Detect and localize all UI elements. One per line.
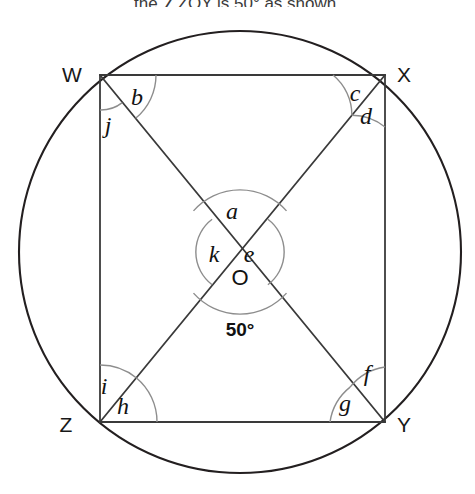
- vertex-label-z: Z: [60, 413, 73, 436]
- angle-label-b: b: [131, 84, 143, 110]
- angle-label-j: j: [102, 112, 112, 138]
- angle-label-f: f: [364, 360, 374, 386]
- angle-label-e: e: [244, 241, 255, 267]
- angle-label-k: k: [209, 241, 220, 267]
- angle-label-g: g: [339, 390, 351, 416]
- angle-arc-lower: [194, 293, 287, 314]
- vertex-label-x: X: [397, 63, 411, 86]
- vertex-label-w: W: [62, 63, 82, 86]
- angle-label-i: i: [101, 373, 108, 399]
- given-angle-measure: 50°: [226, 319, 255, 340]
- centre-point-label-o: O: [231, 265, 248, 290]
- geometry-figure: the ∠ZOY is 50° as shown.: [0, 0, 475, 494]
- angle-arc-j: [100, 103, 122, 110]
- angle-label-a: a: [226, 198, 238, 224]
- angle-label-h: h: [117, 393, 129, 419]
- vertex-label-y: Y: [397, 413, 411, 436]
- angle-arc-a: [194, 190, 287, 211]
- angle-label-d: d: [360, 103, 373, 129]
- angle-arc-h: [136, 378, 157, 422]
- circle-rectangle-diagram: W X Y Z b j c d a k e i h f g O 50°: [0, 0, 475, 494]
- angle-arc-e: [268, 219, 284, 284]
